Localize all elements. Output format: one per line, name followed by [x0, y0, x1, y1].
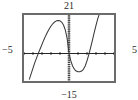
y-min-label: −15	[0, 89, 138, 100]
x-max-label: 5	[132, 44, 137, 55]
y-max-label: 21	[0, 0, 138, 11]
graph-figure: ) 21 −15 −5 5	[0, 0, 138, 100]
plot-canvas	[24, 15, 114, 81]
x-min-label: −5	[2, 44, 13, 55]
function-curve	[29, 15, 110, 79]
plot-frame	[22, 13, 116, 83]
